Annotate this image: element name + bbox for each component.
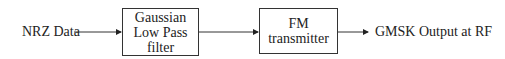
gaussian-filter-block: Gaussian Low Pass filter <box>122 8 199 56</box>
block-line: filter <box>147 40 174 55</box>
block-line: Low Pass <box>133 25 187 40</box>
fm-transmitter-block: FM transmitter <box>259 8 338 54</box>
block-line: Gaussian <box>135 10 186 25</box>
output-label: GMSK Output at RF <box>375 24 492 40</box>
block-line: FM <box>288 16 308 31</box>
block-line: transmitter <box>268 31 329 46</box>
input-label: NRZ Data <box>22 24 80 40</box>
